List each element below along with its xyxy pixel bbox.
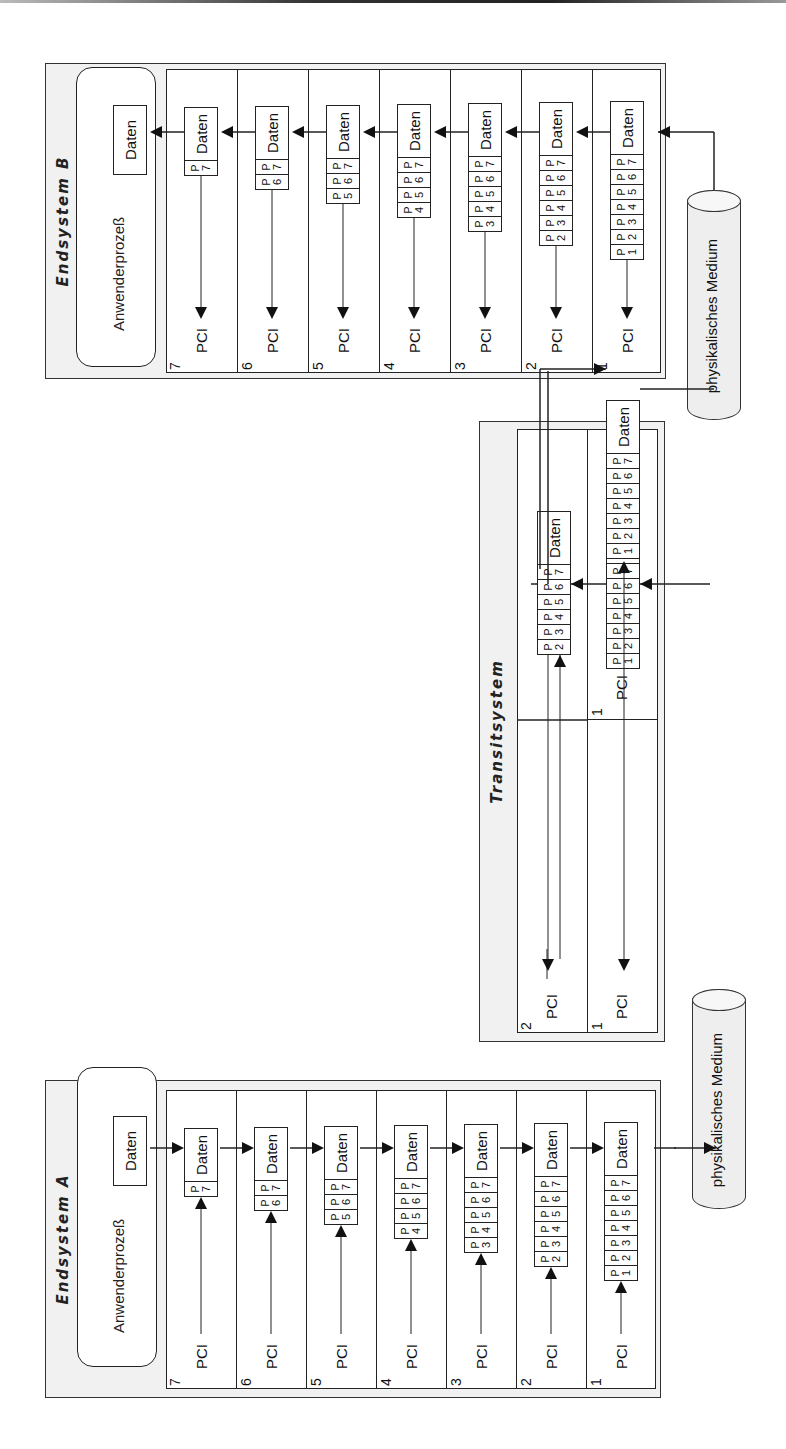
connector-arrows xyxy=(0,0,786,1449)
osi-encapsulation-diagram: Endsystem A Anwenderprozeß Daten 7PCIP7D… xyxy=(0,0,786,1449)
